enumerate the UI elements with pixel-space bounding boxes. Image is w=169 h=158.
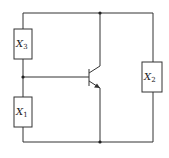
junction-bottom — [98, 140, 101, 143]
npn-transistor — [89, 13, 100, 142]
junction-left — [21, 75, 24, 78]
component-x1: X1 — [14, 97, 32, 127]
transistor-collector — [89, 66, 100, 73]
component-x3: X3 — [14, 29, 32, 59]
circuit-diagram: X3 X1 X2 — [0, 0, 169, 158]
component-x2: X2 — [142, 62, 162, 92]
junction-top — [98, 11, 101, 14]
